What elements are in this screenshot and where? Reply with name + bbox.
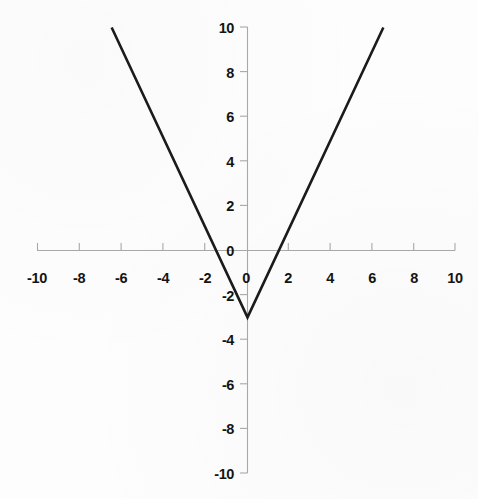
y-tick-label: 0 [226, 243, 234, 259]
x-tick-label: 4 [326, 270, 334, 286]
y-tick-label: -2 [222, 288, 234, 304]
x-tick-label: 6 [368, 270, 376, 286]
x-tick-label: -6 [115, 270, 127, 286]
y-tick-label: 6 [226, 109, 234, 125]
x-tick-label: -4 [157, 270, 169, 286]
y-tick-label: 4 [226, 154, 234, 170]
x-tick-label: -10 [27, 270, 47, 286]
x-tick-label: 2 [284, 270, 292, 286]
x-tick-label: -2 [199, 270, 211, 286]
absolute-value-graph: -10 -8 -6 -4 -2 0 2 4 6 8 10 10 8 6 4 2 … [0, 0, 478, 499]
x-tick-labels: -10 -8 -6 -4 -2 0 2 4 6 8 10 [27, 270, 463, 286]
y-tick-label: -6 [222, 377, 234, 393]
y-tick-label: 2 [226, 198, 234, 214]
x-tick-marks [38, 243, 456, 251]
y-tick-label: -4 [222, 332, 234, 348]
x-tick-label: -8 [73, 270, 85, 286]
y-tick-label: -8 [222, 421, 234, 437]
x-tick-label: 0 [242, 270, 250, 286]
y-tick-label: 10 [219, 20, 235, 36]
chart-canvas: -10 -8 -6 -4 -2 0 2 4 6 8 10 10 8 6 4 2 … [0, 0, 478, 499]
y-tick-label: 8 [226, 65, 234, 81]
x-tick-label: 10 [447, 270, 463, 286]
x-tick-label: 8 [410, 270, 418, 286]
y-tick-label: -10 [214, 466, 234, 482]
